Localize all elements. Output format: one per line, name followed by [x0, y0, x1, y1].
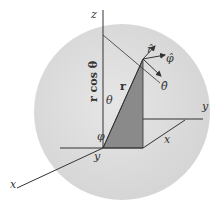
- spherical-coordinates-diagram: z x y r cos θ r θ φ r̂ φ̂ θ̂ y x: [0, 0, 219, 218]
- z-axis-label: z: [90, 8, 97, 21]
- phi-label: φ: [97, 130, 105, 143]
- theta-hat-label: θ̂: [161, 80, 168, 93]
- y-projection-label: y: [93, 150, 101, 163]
- r-cos-theta-label: r cos θ: [87, 61, 100, 102]
- x-projection-label: x: [164, 133, 171, 146]
- phi-hat-label: φ̂: [166, 52, 174, 65]
- theta-label: θ: [106, 94, 113, 107]
- y-axis-label: y: [201, 100, 209, 113]
- x-axis-label: x: [10, 178, 17, 191]
- radius-label: r: [120, 80, 126, 93]
